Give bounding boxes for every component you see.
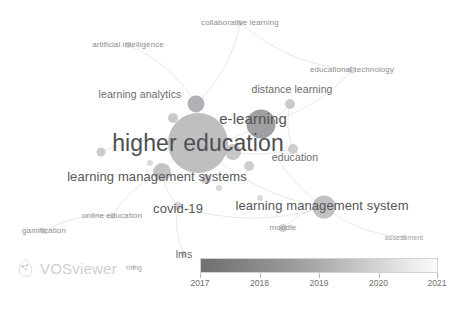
network-node-minor	[147, 160, 153, 166]
term-label[interactable]: learning management system	[235, 199, 408, 212]
term-label[interactable]: moodle	[270, 224, 297, 232]
term-label[interactable]: online education	[82, 212, 142, 220]
term-label[interactable]: learning analytics	[99, 89, 182, 100]
term-label[interactable]: collaborative learning	[201, 19, 279, 27]
term-label[interactable]: higher education	[112, 132, 284, 155]
network-node[interactable]	[285, 99, 295, 109]
vosviewer-logo[interactable]: VOSviewer	[16, 258, 117, 278]
legend-tick-label: 2018	[250, 278, 269, 288]
term-label[interactable]: learning management systems	[67, 170, 247, 183]
legend-tick-label: 2019	[310, 278, 329, 288]
term-label[interactable]: rning	[126, 264, 142, 271]
color-scale-ticks: 20172018201920202021	[200, 273, 438, 291]
network-link	[240, 23, 352, 70]
color-scale-bar	[200, 258, 438, 273]
vosviewer-logo-icon	[16, 258, 35, 278]
vosviewer-map[interactable]: higher educatione-learninglearning manag…	[0, 0, 454, 310]
term-label[interactable]: lms	[176, 249, 193, 260]
network-node[interactable]	[188, 96, 205, 113]
term-label[interactable]: distance learning	[251, 84, 332, 95]
network-link	[288, 104, 293, 149]
network-node-minor	[168, 113, 178, 123]
legend-tick-label: 2017	[191, 278, 210, 288]
legend-tick-label: 2021	[428, 278, 447, 288]
network-link	[196, 23, 240, 104]
network-node-minor	[97, 148, 106, 157]
term-label[interactable]: assessment	[385, 234, 423, 241]
legend-tick-label: 2020	[369, 278, 388, 288]
term-label[interactable]: gamification	[22, 227, 66, 235]
year-color-legend: 20172018201920202021	[200, 258, 438, 291]
network-node-minor	[216, 185, 222, 191]
vosviewer-wordmark: VOSviewer	[40, 261, 117, 276]
term-label[interactable]: educational technology	[310, 66, 394, 74]
term-label[interactable]: covid-19	[153, 202, 203, 215]
term-label[interactable]: education	[272, 152, 318, 163]
term-label[interactable]: artificial intelligence	[92, 41, 164, 49]
term-label[interactable]: e-learning	[219, 111, 287, 126]
